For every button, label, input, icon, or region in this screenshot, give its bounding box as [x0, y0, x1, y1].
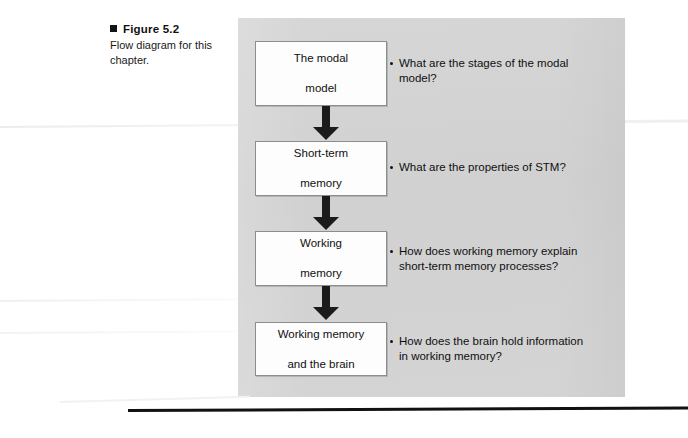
figure-description: Flow diagram for this chapter.	[110, 38, 228, 67]
flow-box-short-term-memory[interactable]: Short-termmemory	[255, 141, 387, 196]
figure-page: Figure 5.2 Flow diagram for this chapter…	[0, 0, 688, 438]
question-line2: model?	[399, 72, 437, 84]
bullet-dot-icon	[390, 62, 393, 65]
question-item-working-memory: How does working memory explainshort-ter…	[390, 244, 618, 274]
question-item-short-term-memory: What are the properties of STM?	[390, 160, 618, 175]
arrow-head	[313, 127, 339, 140]
question-item-working-memory-and-brain: How does the brain hold informationin wo…	[390, 334, 618, 364]
figure-number-heading: Figure 5.2	[110, 22, 228, 37]
bullet-dot-icon	[390, 340, 393, 343]
scan-artifact-line	[0, 298, 240, 302]
down-arrow-icon	[313, 286, 339, 320]
bullet-dot-icon	[390, 166, 393, 169]
question-text: What are the properties of STM?	[399, 160, 566, 175]
question-line1: What are the stages of the modal	[399, 57, 568, 69]
flow-box-working-memory-and-brain[interactable]: Working memoryand the brain	[255, 322, 387, 376]
question-text: How does working memory explainshort-ter…	[399, 244, 577, 274]
flow-box-line2: memory	[294, 266, 348, 281]
diagram-panel: The modalmodel What are the stages of th…	[238, 18, 625, 397]
flow-box-modal-model[interactable]: The modalmodel	[255, 41, 387, 106]
scan-artifact-line	[620, 120, 688, 122]
arrow-shaft	[322, 196, 330, 219]
scan-artifact-line	[0, 331, 240, 334]
down-arrow-icon	[313, 106, 339, 140]
arrow-head	[313, 307, 339, 320]
flow-box-label: The modalmodel	[282, 51, 360, 96]
bullet-dot-icon	[390, 250, 393, 253]
flow-box-line1: Working memory	[272, 327, 371, 342]
flow-box-working-memory[interactable]: Workingmemory	[255, 231, 387, 286]
question-text: How does the brain hold informationin wo…	[399, 334, 583, 364]
arrow-shaft	[322, 106, 330, 129]
flow-box-label: Working memoryand the brain	[266, 327, 377, 372]
question-line2: short-term memory processes?	[399, 260, 558, 272]
down-arrow-icon	[313, 196, 339, 230]
question-text: What are the stages of the modalmodel?	[399, 56, 568, 86]
question-item-modal-model: What are the stages of the modalmodel?	[390, 56, 618, 86]
flow-box-line2: and the brain	[272, 357, 371, 372]
flow-box-line2: model	[288, 81, 354, 96]
flow-box-label: Short-termmemory	[282, 146, 360, 191]
question-line1: How does working memory explain	[399, 245, 577, 257]
figure-caption: Figure 5.2 Flow diagram for this chapter…	[110, 22, 228, 67]
question-line1: How does the brain hold information	[399, 335, 583, 347]
flow-box-line1: Short-term	[288, 146, 354, 161]
figure-number-label: Figure 5.2	[123, 23, 179, 35]
arrow-head	[313, 217, 339, 230]
page-bottom-rule	[128, 407, 688, 412]
flow-box-line1: Working	[294, 236, 348, 251]
scan-artifact-line	[60, 396, 250, 403]
flow-box-line2: memory	[288, 176, 354, 191]
question-line2: in working memory?	[399, 350, 502, 362]
flow-box-label: Workingmemory	[288, 236, 354, 281]
flow-box-line1: The modal	[288, 51, 354, 66]
arrow-shaft	[322, 286, 330, 309]
black-square-marker-icon	[110, 25, 117, 32]
